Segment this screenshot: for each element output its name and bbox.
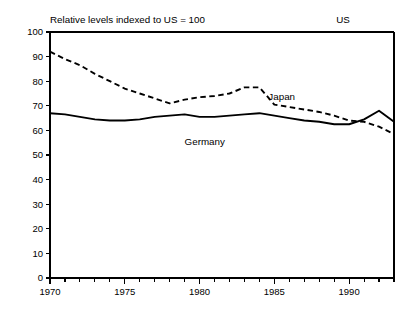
series-label-germany: Germany — [185, 136, 225, 147]
x-tick-label: 1980 — [189, 286, 210, 297]
y-tick-label: 30 — [32, 199, 43, 210]
y-tick-label: 20 — [32, 223, 43, 234]
series-line-germany — [50, 111, 394, 125]
chart-title: Relative levels indexed to US = 100 — [50, 14, 205, 25]
y-tick-label: 10 — [32, 248, 43, 259]
y-tick-label: 100 — [27, 26, 43, 37]
y-tick-label: 50 — [32, 149, 43, 160]
series-label-japan: Japan — [268, 91, 295, 102]
y-tick-label: 40 — [32, 174, 43, 185]
y-tick-label: 70 — [32, 100, 43, 111]
y-tick-label: 80 — [32, 76, 43, 87]
x-tick-label: 1990 — [339, 286, 360, 297]
x-axis-tick-labels: 19701975198019851990 — [39, 286, 359, 297]
us-reference-label: US — [336, 14, 350, 25]
chart-container: 0102030405060708090100 19701975198019851… — [0, 0, 416, 315]
line-chart: 0102030405060708090100 19701975198019851… — [0, 0, 416, 315]
y-tick-label: 0 — [38, 272, 43, 283]
x-tick-label: 1970 — [39, 286, 60, 297]
y-tick-label: 60 — [32, 125, 43, 136]
y-axis-tick-labels: 0102030405060708090100 — [27, 26, 43, 283]
x-axis-ticks — [50, 278, 394, 284]
series-line-japan — [50, 52, 394, 134]
y-tick-label: 90 — [32, 51, 43, 62]
x-tick-label: 1975 — [114, 286, 135, 297]
x-tick-label: 1985 — [264, 286, 285, 297]
